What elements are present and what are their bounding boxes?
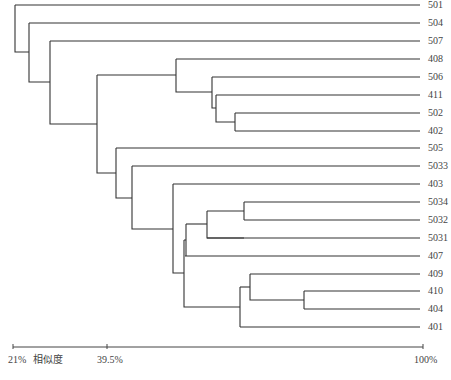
leaf-label-507: 507: [428, 36, 443, 46]
leaf-label-505: 505: [428, 143, 443, 153]
axis-tick-39-5: 39.5%: [97, 355, 123, 365]
leaf-label-5034: 5034: [428, 197, 448, 207]
leaf-label-407: 407: [428, 251, 443, 261]
dendrogram-branches: [15, 5, 420, 327]
axis-tick-21: 21%: [8, 355, 26, 365]
leaf-label-5031: 5031: [428, 233, 448, 243]
axis-title: 相似度: [33, 355, 63, 365]
leaf-label-410: 410: [428, 286, 443, 296]
similarity-axis: [13, 344, 423, 349]
leaf-label-403: 403: [428, 179, 443, 189]
axis-tick-100: 100%: [414, 355, 437, 365]
leaf-label-409: 409: [428, 269, 443, 279]
dendrogram: [0, 0, 451, 380]
leaf-label-5032: 5032: [428, 215, 448, 225]
leaf-label-502: 502: [428, 108, 443, 118]
leaf-label-411: 411: [428, 90, 443, 100]
leaf-label-501: 501: [428, 0, 443, 10]
leaf-label-504: 504: [428, 18, 443, 28]
leaf-label-402: 402: [428, 126, 443, 136]
leaf-label-506: 506: [428, 72, 443, 82]
leaf-label-404: 404: [428, 304, 443, 314]
leaf-label-408: 408: [428, 54, 443, 64]
leaf-label-401: 401: [428, 322, 443, 332]
leaf-label-5033: 5033: [428, 161, 448, 171]
